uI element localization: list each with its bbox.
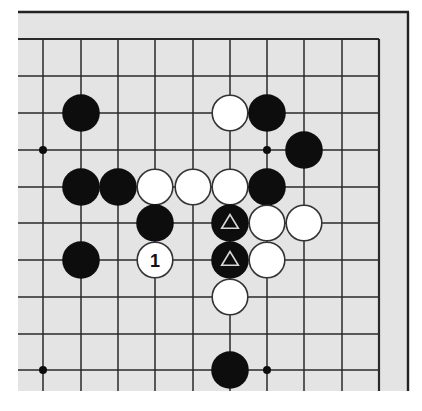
black-stone-icon bbox=[211, 351, 249, 389]
white-stone-icon bbox=[286, 205, 322, 241]
white-stone-icon bbox=[137, 169, 173, 205]
white-stone-icon bbox=[249, 205, 285, 241]
black-stone-icon bbox=[62, 241, 100, 279]
white-stone bbox=[249, 242, 285, 278]
star-point-icon bbox=[39, 146, 47, 154]
black-stone-icon bbox=[62, 94, 100, 132]
star-point-icon bbox=[263, 146, 271, 154]
black-stone bbox=[99, 168, 137, 206]
black-stone-icon bbox=[62, 168, 100, 206]
white-stone bbox=[137, 169, 173, 205]
white-stone-icon bbox=[212, 95, 248, 131]
white-stone bbox=[212, 169, 248, 205]
black-stone bbox=[62, 168, 100, 206]
black-stone bbox=[248, 94, 286, 132]
star-point-icon bbox=[39, 366, 47, 374]
black-stone bbox=[136, 204, 174, 242]
white-stone bbox=[249, 205, 285, 241]
white-stone bbox=[212, 95, 248, 131]
black-stone bbox=[211, 351, 249, 389]
star-point-icon bbox=[263, 366, 271, 374]
white-stone-icon bbox=[249, 242, 285, 278]
white-stone bbox=[286, 205, 322, 241]
go-board-diagram: 1 bbox=[0, 0, 422, 411]
black-stone-icon bbox=[248, 94, 286, 132]
white-stone-move-1: 1 bbox=[137, 242, 173, 278]
black-stone bbox=[248, 168, 286, 206]
black-stone-triangle-marked bbox=[211, 204, 249, 242]
white-stone-icon bbox=[212, 169, 248, 205]
white-stone bbox=[212, 279, 248, 315]
white-stone bbox=[175, 169, 211, 205]
black-stone-icon bbox=[285, 131, 323, 169]
black-stone-triangle-marked bbox=[211, 241, 249, 279]
black-stone-icon bbox=[248, 168, 286, 206]
white-stone-icon bbox=[212, 279, 248, 315]
black-stone bbox=[62, 241, 100, 279]
black-stone-icon bbox=[99, 168, 137, 206]
black-stone-icon bbox=[136, 204, 174, 242]
white-stone-icon bbox=[175, 169, 211, 205]
black-stone-icon bbox=[211, 241, 249, 279]
black-stone-icon bbox=[211, 204, 249, 242]
move-number-label: 1 bbox=[150, 251, 160, 271]
black-stone bbox=[285, 131, 323, 169]
black-stone bbox=[62, 94, 100, 132]
